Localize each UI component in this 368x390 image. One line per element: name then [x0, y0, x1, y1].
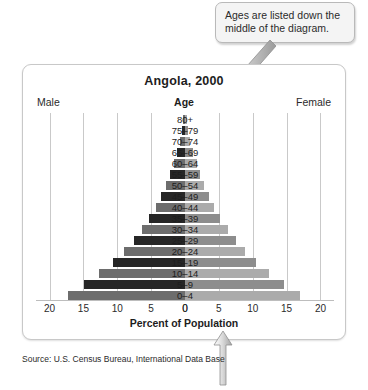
female-bar [185, 170, 200, 179]
female-bar [185, 126, 188, 135]
male-bar [142, 225, 185, 234]
female-bar [185, 225, 228, 234]
pyramid-row: 25–29 [36, 235, 334, 246]
male-bar [113, 258, 185, 267]
chart-panel: Angola, 2000 Male Age Female 80+75–7970–… [22, 64, 346, 340]
pyramid-row: 10–14 [36, 268, 334, 279]
male-bar [99, 269, 185, 278]
male-bar [174, 159, 186, 168]
callout-bubble: Ages are listed down the middle of the d… [215, 2, 355, 43]
x-tick-label: 0 [182, 303, 188, 314]
female-bar [185, 291, 300, 300]
x-tick-label: 5 [148, 303, 154, 314]
pyramid-row: 35–39 [36, 213, 334, 224]
male-bar [124, 247, 185, 256]
pyramid-plot-area: 80+75–7970–7465–6960–6455–5950–5445–4940… [36, 113, 334, 301]
female-bar [185, 258, 256, 267]
male-bar [156, 203, 185, 212]
female-bar [185, 269, 269, 278]
x-tick-label: 10 [247, 303, 258, 314]
male-bar [177, 148, 185, 157]
male-bar [84, 280, 185, 289]
pyramid-row: 5–9 [36, 279, 334, 290]
source-note: Source: U.S. Census Bureau, Internationa… [22, 354, 225, 364]
female-bar [185, 148, 193, 157]
female-bar [185, 137, 190, 146]
x-tick-label: 20 [44, 303, 55, 314]
pyramid-row: 80+ [36, 114, 334, 125]
female-bar [185, 159, 197, 168]
x-tick-label: 10 [112, 303, 123, 314]
x-axis-ticks: 2015105005101520 [36, 303, 334, 317]
callout-text: Ages are listed down the middle of the d… [225, 9, 346, 35]
chart-title: Angola, 2000 [23, 74, 345, 88]
female-bar [185, 214, 220, 223]
pyramid-row: 50–54 [36, 180, 334, 191]
male-bar [161, 192, 185, 201]
pyramid-row: 15–19 [36, 257, 334, 268]
male-bar [166, 181, 185, 190]
pyramid-row: 20–24 [36, 246, 334, 257]
pyramid-row: 55–59 [36, 169, 334, 180]
pyramid-row: 65–69 [36, 147, 334, 158]
pyramid-row: 0–4 [36, 290, 334, 301]
pyramid-row: 75–79 [36, 125, 334, 136]
x-tick-label: 15 [281, 303, 292, 314]
male-bar [68, 291, 185, 300]
female-bar [185, 236, 236, 245]
pyramid-row: 40–44 [36, 202, 334, 213]
pyramid-row: 70–74 [36, 136, 334, 147]
pyramid-row: 30–34 [36, 224, 334, 235]
female-bar [185, 203, 214, 212]
female-axis-label: Female [296, 96, 331, 108]
pyramid-row: 45–49 [36, 191, 334, 202]
female-bar [185, 192, 209, 201]
female-bar [185, 280, 284, 289]
female-bar [185, 115, 187, 124]
x-tick-label: 20 [315, 303, 326, 314]
female-bar [185, 181, 204, 190]
pyramid-row: 60–64 [36, 158, 334, 169]
x-tick-label: 15 [78, 303, 89, 314]
female-bar [185, 247, 245, 256]
x-tick-label: 5 [216, 303, 222, 314]
male-bar [170, 170, 185, 179]
male-bar [149, 214, 185, 223]
male-bar [134, 236, 185, 245]
x-axis-title: Percent of Population [23, 317, 345, 329]
